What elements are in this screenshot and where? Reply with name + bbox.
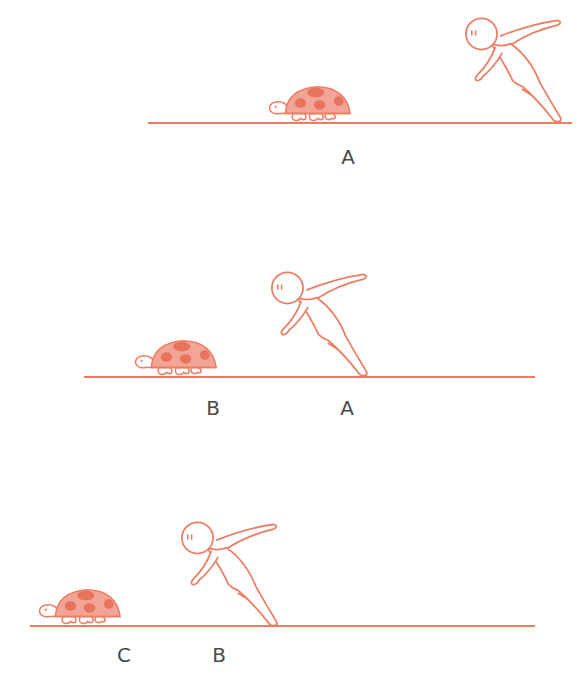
position-label-a: A bbox=[340, 398, 354, 418]
position-label-a: A bbox=[341, 147, 355, 167]
position-label-c: C bbox=[117, 645, 131, 665]
running-person-icon bbox=[462, 14, 574, 124]
running-person-icon bbox=[178, 518, 290, 628]
turtle-icon bbox=[268, 84, 354, 124]
turtle-icon bbox=[134, 338, 220, 378]
position-label-b: B bbox=[206, 398, 220, 418]
race-diagram: A B A C B bbox=[0, 0, 578, 692]
position-label-b: B bbox=[212, 645, 226, 665]
running-person-icon bbox=[268, 268, 380, 378]
turtle-icon bbox=[38, 587, 124, 627]
